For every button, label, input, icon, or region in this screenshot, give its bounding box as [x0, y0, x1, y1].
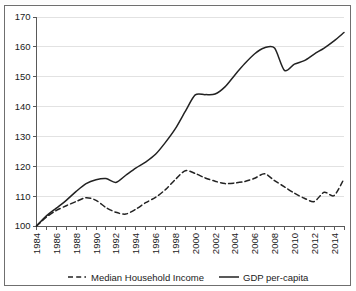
legend-label-1[interactable]: Median Household Income [91, 272, 204, 283]
legend-label-2[interactable]: GDP per-capita [243, 272, 309, 283]
x-tick-label: 2012 [309, 233, 320, 254]
y-tick-label: 170 [15, 11, 31, 22]
series-line-2 [37, 33, 345, 226]
x-tick-label: 2002 [210, 233, 221, 254]
y-tick-label: 120 [15, 161, 31, 172]
x-tick-label: 1990 [91, 233, 102, 254]
y-axis [33, 17, 37, 226]
x-tick-label: 1988 [71, 233, 82, 254]
chart-container: 100110120130140150160170 198419861988199… [0, 0, 356, 291]
line-chart-plot: 100110120130140150160170 198419861988199… [0, 0, 356, 291]
x-axis [37, 226, 345, 230]
gridlines [37, 17, 345, 196]
plot-area-wrapper: 100110120130140150160170 198419861988199… [0, 0, 356, 291]
y-tick-label: 140 [15, 101, 31, 112]
x-tick-label: 1992 [110, 233, 121, 254]
x-tick-label: 2008 [269, 233, 280, 254]
y-tick-label: 100 [15, 220, 31, 231]
x-tick-label: 1984 [31, 233, 42, 254]
y-tick-labels: 100110120130140150160170 [15, 11, 31, 231]
y-tick-label: 150 [15, 71, 31, 82]
chart-legend: Median Household IncomeGDP per-capita [68, 272, 309, 283]
x-tick-label: 1986 [51, 233, 62, 254]
y-tick-label: 110 [15, 191, 30, 202]
x-tick-label: 2006 [249, 233, 260, 254]
y-tick-label: 130 [15, 131, 31, 142]
x-tick-label: 1994 [130, 233, 141, 254]
x-tick-label: 2014 [329, 233, 340, 254]
y-tick-label: 160 [15, 41, 31, 52]
x-tick-label: 2004 [229, 233, 240, 254]
x-tick-labels: 1984198619881990199219941996199820002002… [31, 233, 340, 254]
x-tick-label: 1998 [170, 233, 181, 254]
x-tick-label: 2000 [190, 233, 201, 254]
data-series-lines [37, 33, 345, 226]
series-line-1 [37, 171, 345, 226]
x-tick-label: 2010 [289, 233, 300, 254]
x-tick-label: 1996 [150, 233, 161, 254]
